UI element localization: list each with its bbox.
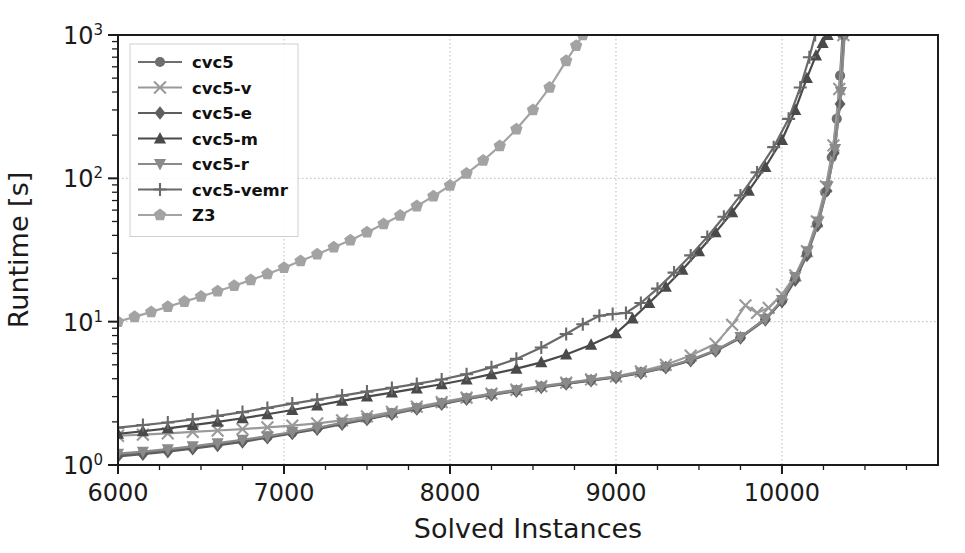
legend-label: cvc5-m [192,130,258,149]
legend-label: cvc5-e [192,104,252,123]
series-marker [155,57,165,67]
chart-figure: 600070008000900010000 100101102103 Solve… [0,0,965,553]
x-tick-label: 7000 [253,479,314,507]
x-tick-label: 8000 [419,479,480,507]
runtime-cactus-plot: 600070008000900010000 100101102103 Solve… [0,0,965,553]
y-axis-title: Runtime [s] [3,172,34,329]
x-axis-title: Solved Instances [414,513,642,544]
chart-legend[interactable]: cvc5cvc5-vcvc5-ecvc5-mcvc5-rcvc5-vemrZ3 [130,44,298,237]
legend-label: cvc5-v [192,79,252,98]
x-tick-label: 9000 [585,479,646,507]
legend-label: cvc5 [192,53,234,72]
x-tick-label: 6000 [87,479,148,507]
legend-label: cvc5-r [192,155,250,174]
legend-label: Z3 [192,206,215,225]
legend-label: cvc5-vemr [192,181,289,200]
x-tick-label: 10000 [744,479,820,507]
